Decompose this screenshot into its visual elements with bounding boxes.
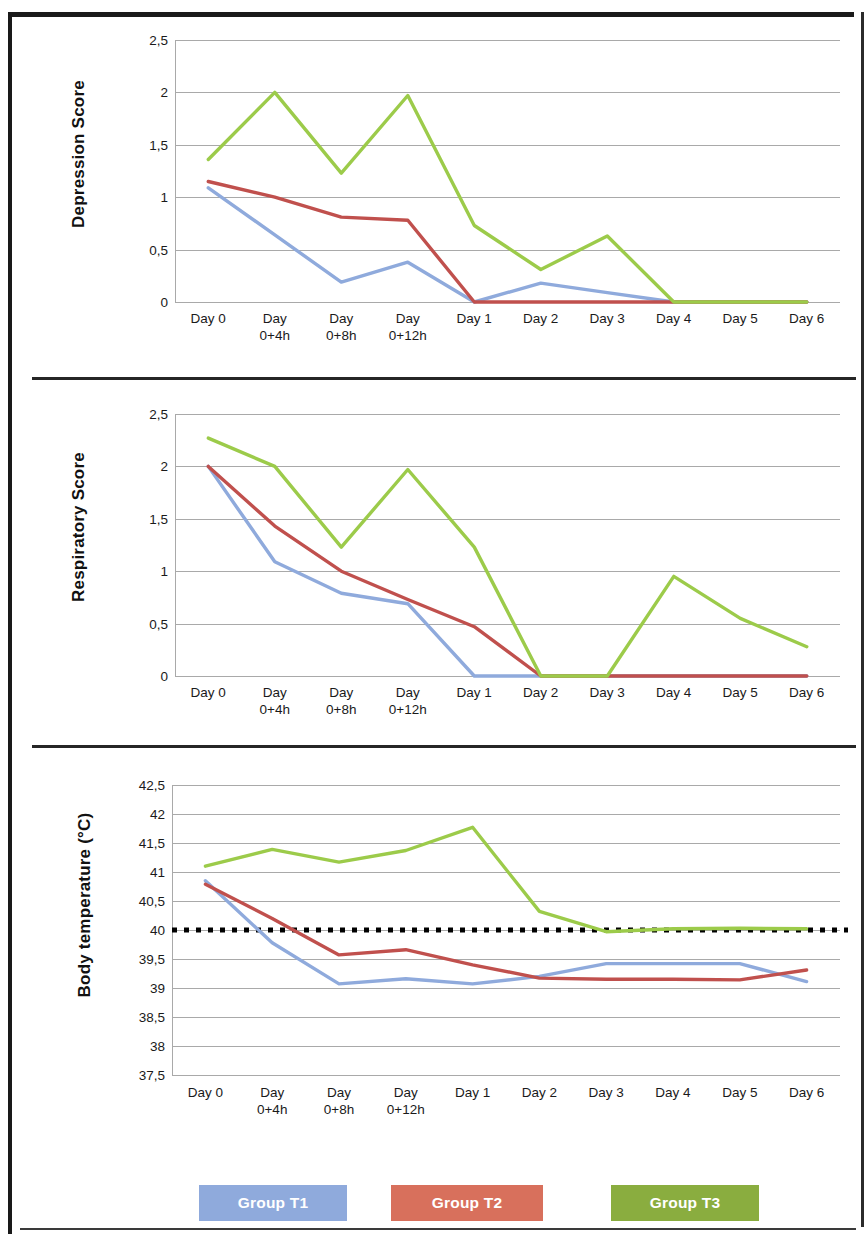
y-tick-label: 39 — [150, 981, 165, 996]
y-tick-label: 1,5 — [149, 137, 168, 152]
x-tick-label: Day 3 — [590, 310, 625, 327]
x-tick-label-line1: Day 2 — [523, 684, 558, 701]
panel-divider-2 — [32, 745, 856, 748]
x-tick-label-line2: 0+12h — [389, 701, 427, 718]
y-tick-label: 0 — [160, 295, 168, 310]
chart-panel-depression-score: Depression Score 00,511,522,5 Day 0Day0+… — [0, 14, 864, 374]
y-tick-label: 0,5 — [149, 616, 168, 631]
x-tick-label: Day 2 — [523, 310, 558, 327]
x-tick-label: Day 5 — [723, 310, 758, 327]
x-tick-label: Day 1 — [455, 1084, 490, 1101]
y-tick-label: 37,5 — [139, 1068, 165, 1083]
x-tick-label-line1: Day 1 — [455, 1084, 490, 1101]
legend-label-group-t1: Group T1 — [238, 1194, 309, 1212]
x-tick-label-line1: Day 3 — [590, 684, 625, 701]
series-line-group-t2 — [208, 182, 807, 303]
x-tick-label: Day0+12h — [387, 1084, 425, 1118]
x-tick-label: Day0+8h — [326, 310, 356, 344]
series-line-group-t3 — [208, 438, 807, 676]
y-axis-ticks-depression: 00,511,522,5 — [116, 40, 168, 302]
x-tick-label-line1: Day 2 — [522, 1084, 557, 1101]
y-tick-label: 40 — [150, 923, 165, 938]
x-tick-label: Day 4 — [656, 310, 691, 327]
x-tick-label-line1: Day 0 — [191, 684, 226, 701]
x-tick-label: Day 1 — [457, 310, 492, 327]
x-tick-label: Day 0 — [191, 310, 226, 327]
series-line-group-t3 — [208, 92, 807, 302]
x-tick-label-line1: Day 6 — [789, 1084, 824, 1101]
x-tick-label-line1: Day 5 — [722, 1084, 757, 1101]
panel-divider-1 — [32, 377, 856, 380]
y-tick-label: 1,5 — [149, 511, 168, 526]
x-tick-label-line1: Day 4 — [656, 310, 691, 327]
y-tick-label: 42 — [150, 807, 165, 822]
series-line-group-t1 — [208, 466, 807, 676]
chart-panel-body-temperature: Body temperature (°C) 37,53838,53939,540… — [0, 750, 864, 1150]
x-tick-label-line1: Day — [260, 310, 290, 327]
legend-item-group-t2: Group T2 — [391, 1185, 543, 1221]
y-tick-label: 39,5 — [139, 952, 165, 967]
y-tick-label: 1 — [160, 190, 168, 205]
y-tick-label: 0,5 — [149, 242, 168, 257]
y-axis-title-depression: Depression Score — [69, 59, 89, 249]
y-tick-label: 2,5 — [149, 407, 168, 422]
x-tick-label: Day 0 — [188, 1084, 223, 1101]
x-tick-label-line2: 0+12h — [389, 327, 427, 344]
x-axis-labels-depression: Day 0Day0+4hDay0+8hDay0+12hDay 1Day 2Day… — [175, 310, 840, 358]
y-axis-ticks-respiratory: 00,511,522,5 — [116, 414, 168, 676]
y-axis-title-respiratory: Respiratory Score — [69, 432, 89, 622]
x-tick-label: Day0+4h — [260, 684, 290, 718]
y-tick-label: 2 — [160, 85, 168, 100]
x-tick-label: Day 6 — [789, 310, 824, 327]
legend-label-group-t2: Group T2 — [432, 1194, 503, 1212]
x-tick-label-line2: 0+12h — [387, 1101, 425, 1118]
y-axis-title-body-temperature: Body temperature (°C) — [75, 780, 95, 1030]
page-bottom-rule — [20, 1228, 856, 1230]
legend-item-group-t1: Group T1 — [199, 1185, 347, 1221]
x-tick-label-line1: Day — [260, 684, 290, 701]
x-tick-label-line2: 0+8h — [324, 1101, 354, 1118]
plot-area-respiratory — [175, 414, 840, 676]
x-tick-label-line1: Day 4 — [655, 1084, 690, 1101]
x-tick-label-line1: Day 3 — [590, 310, 625, 327]
x-tick-label: Day 3 — [590, 684, 625, 701]
x-tick-label: Day 0 — [191, 684, 226, 701]
series-line-group-t3 — [205, 827, 806, 931]
legend-label-group-t3: Group T3 — [650, 1194, 721, 1212]
chart-panel-respiratory-score: Respiratory Score 00,511,522,5 Day 0Day0… — [0, 382, 864, 742]
x-tick-label-line1: Day 5 — [723, 310, 758, 327]
x-tick-label-line1: Day 1 — [457, 684, 492, 701]
x-tick-label-line1: Day 5 — [723, 684, 758, 701]
x-axis-labels-body-temperature: Day 0Day0+4hDay0+8hDay0+12hDay 1Day 2Day… — [172, 1084, 840, 1132]
series-canvas — [175, 40, 840, 302]
x-tick-label: Day0+12h — [389, 684, 427, 718]
x-tick-label: Day 3 — [589, 1084, 624, 1101]
x-tick-label: Day 4 — [656, 684, 691, 701]
series-canvas — [175, 414, 840, 676]
x-tick-label: Day 6 — [789, 684, 824, 701]
x-tick-label: Day0+4h — [257, 1084, 287, 1118]
x-tick-label: Day 4 — [655, 1084, 690, 1101]
x-tick-label: Day0+12h — [389, 310, 427, 344]
plot-area-body-temperature — [172, 785, 840, 1075]
x-tick-label: Day0+8h — [326, 684, 356, 718]
x-tick-label-line1: Day — [326, 310, 356, 327]
x-tick-label: Day 2 — [522, 1084, 557, 1101]
y-tick-label: 38,5 — [139, 1010, 165, 1025]
gridline — [172, 1075, 840, 1076]
x-tick-label-line1: Day — [257, 1084, 287, 1101]
legend: Group T1 Group T2 Group T3 — [0, 1185, 864, 1231]
x-tick-label: Day 5 — [723, 684, 758, 701]
x-tick-label-line2: 0+4h — [260, 327, 290, 344]
x-tick-label-line1: Day — [326, 684, 356, 701]
y-tick-label: 2 — [160, 459, 168, 474]
y-tick-label: 40,5 — [139, 894, 165, 909]
x-tick-label: Day 5 — [722, 1084, 757, 1101]
y-tick-label: 41 — [150, 865, 165, 880]
x-tick-label-line2: 0+8h — [326, 327, 356, 344]
x-tick-label-line1: Day — [389, 684, 427, 701]
scanned-figure-page: Depression Score 00,511,522,5 Day 0Day0+… — [0, 0, 864, 1241]
x-tick-label: Day 2 — [523, 684, 558, 701]
plot-area-depression — [175, 40, 840, 302]
y-tick-label: 38 — [150, 1039, 165, 1054]
